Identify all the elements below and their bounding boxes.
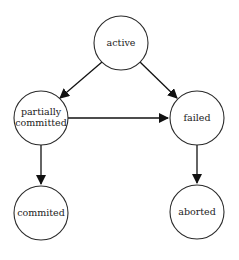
edge-active-to-partially-committed [60, 62, 102, 98]
state-failed: failed [170, 91, 224, 145]
state-aborted: aborted [170, 185, 224, 239]
state-diagram: active partially committed failed commit… [0, 0, 239, 260]
state-active: active [94, 16, 148, 70]
state-partially-committed: partially committed [14, 91, 68, 145]
state-label: commited [17, 207, 65, 218]
state-label: active [107, 37, 136, 48]
state-commited: commited [14, 186, 68, 240]
state-label-line-1: partially [21, 106, 62, 117]
edge-active-to-failed [140, 62, 177, 98]
state-label-line-2: committed [15, 117, 66, 128]
state-label: aborted [178, 206, 216, 217]
state-label: failed [184, 112, 211, 123]
